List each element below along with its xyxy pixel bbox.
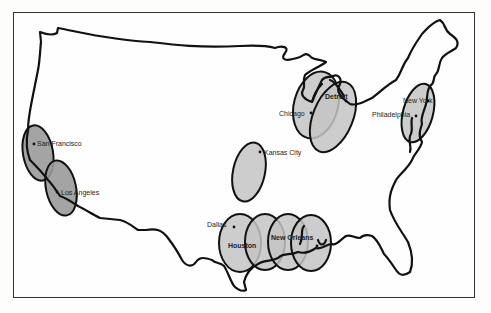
label-chicago: Chicago <box>279 110 305 118</box>
label-new-york: New York <box>403 97 433 104</box>
label-new-orleans: New Orleans <box>271 234 314 241</box>
city-dot-los-angeles <box>56 191 59 194</box>
city-dot-chicago <box>310 112 313 115</box>
label-houston: Houston <box>228 242 256 249</box>
city-dot-kansas-city <box>259 151 262 154</box>
label-dallas: Dallas <box>207 221 227 228</box>
city-dot-philadelphia <box>415 115 418 118</box>
city-dot-dallas <box>233 226 236 229</box>
label-philadelphia: Philadelphia <box>372 111 410 119</box>
label-detroit: Detroit <box>325 93 348 100</box>
label-kansas-city: Kansas City <box>264 149 302 157</box>
us-map: San Francisco Los Angeles Kansas City Ch… <box>0 0 491 313</box>
city-dot-detroit <box>345 100 348 103</box>
label-san-francisco: San Francisco <box>37 140 82 147</box>
label-los-angeles: Los Angeles <box>61 189 100 197</box>
city-dot-san-francisco <box>33 143 36 146</box>
city-dot-new-orleans <box>316 245 319 248</box>
